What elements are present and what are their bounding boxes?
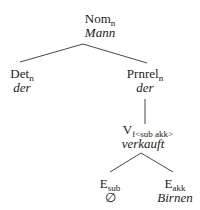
node-det-category: Detn — [0, 67, 44, 81]
node-eakk-category: Eakk — [152, 177, 198, 191]
node-verb: Vf<sub akk> verkauft — [110, 123, 186, 151]
node-esub-word: ∅ — [92, 191, 128, 205]
edge-nom-det — [20, 44, 83, 62]
node-prnrel: Prnreln der — [115, 67, 175, 95]
node-esub-category: Esub — [92, 177, 128, 191]
node-prnrel-word: der — [115, 81, 175, 95]
edge-v-eakk — [141, 153, 173, 172]
edge-nom-prnrel — [83, 44, 147, 63]
node-eakk: Eakk Birnen — [152, 177, 198, 205]
node-esub: Esub ∅ — [92, 177, 128, 205]
node-verb-category: Vf<sub akk> — [110, 123, 186, 137]
edge-v-esub — [110, 153, 141, 172]
node-eakk-word: Birnen — [152, 191, 198, 205]
node-verb-word: verkauft — [100, 137, 186, 151]
node-nom-word: Mann — [60, 26, 140, 40]
node-det: Detn der — [0, 67, 44, 95]
node-prnrel-category: Prnreln — [115, 67, 175, 81]
node-nom-category: Nomn — [60, 12, 140, 26]
node-nom: Nomn Mann — [60, 12, 140, 40]
node-det-word: der — [0, 81, 44, 95]
